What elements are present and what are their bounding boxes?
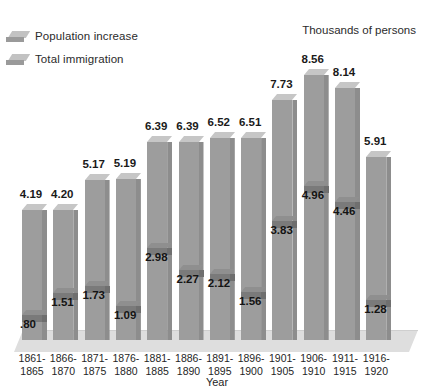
bar-side-face: [386, 157, 391, 340]
bar-value-label-population: 8.56: [296, 53, 330, 65]
bar-front-face: [85, 180, 105, 340]
bar-value-label-population: 5.17: [77, 158, 111, 170]
bar-value-label-population: 4.19: [14, 188, 48, 200]
bar-value-label-immigration: 1.51: [51, 296, 73, 308]
immigration-band-side: [261, 292, 266, 299]
immigration-band-side: [292, 221, 297, 228]
bar-group: [179, 142, 205, 340]
bar-value-label-population: 6.39: [139, 120, 173, 132]
bar-group: [85, 180, 111, 340]
immigration-band-side: [42, 315, 47, 322]
bar-group: [147, 142, 173, 340]
immigration-band-side: [73, 293, 78, 300]
x-axis-category-label: 1886-1890: [172, 352, 206, 377]
immigration-band-top: [304, 181, 328, 186]
bar-top-face: [179, 136, 204, 142]
bar-group: [272, 100, 298, 340]
bar-group: [304, 75, 330, 340]
population-immigration-chart: Population increase Total immigration Th…: [0, 0, 434, 391]
bar-value-label-population: 6.52: [202, 116, 236, 128]
bar-front-face: [210, 138, 230, 340]
immigration-band-side: [324, 186, 329, 193]
immigration-band-side: [136, 306, 141, 313]
x-axis-category-label: 1881-1885: [140, 352, 174, 377]
x-axis-category-label: 1916-1920: [359, 352, 393, 377]
bar-value-label-population: 7.73: [264, 78, 298, 90]
immigration-band-top: [85, 281, 109, 286]
bar-value-label-population: 5.19: [108, 157, 142, 169]
immigration-band-side: [355, 202, 360, 209]
bar-front-face: [241, 138, 261, 340]
bars-layer: 4.19.804.201.515.171.735.191.096.392.986…: [0, 0, 434, 391]
immigration-band-top: [335, 197, 359, 202]
bar-group: [210, 138, 236, 340]
bar-side-face: [230, 138, 235, 340]
bar-side-face: [355, 88, 360, 340]
bar-value-label-immigration: 1.56: [239, 295, 261, 307]
immigration-band-side: [386, 300, 391, 307]
bar-side-face: [136, 179, 141, 340]
bar-group: [53, 210, 79, 340]
bar-value-label-immigration: 3.83: [270, 224, 292, 236]
x-axis-category-label: 1891-1895: [203, 352, 237, 377]
bar-front-face: [53, 210, 73, 340]
x-axis-category-label: 1876-1880: [109, 352, 143, 377]
immigration-band-top: [179, 265, 203, 270]
bar-value-label-immigration: 4.96: [302, 189, 324, 201]
bar-side-face: [261, 138, 266, 340]
bar-front-face: [179, 142, 199, 340]
x-axis-category-label: 1896-1900: [234, 352, 268, 377]
bar-top-face: [304, 69, 329, 75]
bar-value-label-immigration: 1.09: [114, 309, 136, 321]
bar-value-label-population: 6.51: [233, 116, 267, 128]
x-axis-category-label: 1906-1910: [297, 352, 331, 377]
bar-front-face: [147, 142, 167, 340]
x-axis-category-label: 1911-1915: [328, 352, 362, 377]
bar-side-face: [199, 142, 204, 340]
bar-value-label-immigration: 1.28: [364, 303, 386, 315]
immigration-band-side: [199, 270, 204, 277]
bar-side-face: [167, 142, 172, 340]
bar-top-face: [85, 174, 110, 180]
bar-value-label-immigration: 2.12: [208, 277, 230, 289]
bar-value-label-population: 5.91: [358, 135, 392, 147]
x-axis-category-label: 1901-1905: [265, 352, 299, 377]
bar-value-label-immigration: .80: [20, 318, 36, 330]
bar-side-face: [73, 210, 78, 340]
bar-side-face: [292, 100, 297, 340]
bar-side-face: [324, 75, 329, 340]
x-axis-category-label: 1871-1875: [78, 352, 112, 377]
x-axis-category-label: 1866-1870: [46, 352, 80, 377]
bar-value-label-immigration: 2.98: [145, 251, 167, 263]
bar-side-face: [105, 180, 110, 340]
bar-value-label-immigration: 1.73: [83, 289, 105, 301]
bar-value-label-immigration: 4.46: [333, 205, 355, 217]
immigration-band-side: [230, 274, 235, 281]
x-axis-title: Year: [0, 376, 434, 388]
bar-value-label-immigration: 2.27: [177, 273, 199, 285]
immigration-band-top: [147, 243, 171, 248]
immigration-band-side: [105, 286, 110, 293]
bar-value-label-population: 6.39: [171, 120, 205, 132]
bar-front-face: [304, 75, 324, 340]
x-axis-category-label: 1861-1865: [15, 352, 49, 377]
immigration-band-top: [210, 269, 234, 274]
bar-value-label-population: 8.14: [327, 66, 361, 78]
bar-group: [241, 138, 267, 340]
immigration-band-top: [241, 287, 265, 292]
bar-value-label-population: 4.20: [45, 188, 79, 200]
